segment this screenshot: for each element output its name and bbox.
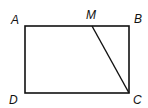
label-b: B bbox=[134, 12, 142, 26]
label-d: D bbox=[9, 93, 18, 107]
label-a: A bbox=[10, 13, 19, 27]
segment-mc bbox=[92, 26, 129, 93]
rectangle-abcd bbox=[25, 26, 129, 93]
label-c: C bbox=[133, 93, 142, 107]
geometry-diagram: A M B D C bbox=[0, 0, 148, 108]
label-m: M bbox=[86, 8, 96, 22]
